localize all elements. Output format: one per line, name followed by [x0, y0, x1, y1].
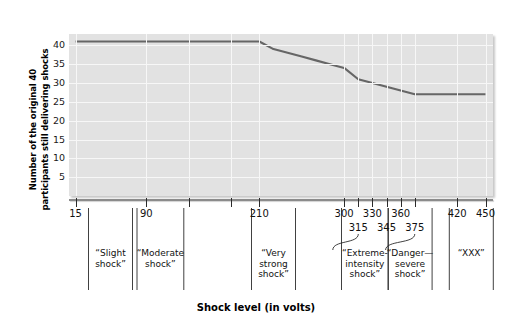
category-label-line: shock”	[95, 259, 126, 270]
category-label-line: “Slight	[95, 248, 126, 259]
x-axis-tick-mark	[146, 198, 147, 207]
category-label: “Slightshock”	[95, 248, 126, 269]
category-label: “XXX”	[458, 248, 485, 259]
category-label: “Danger—severeshock”	[387, 248, 434, 280]
category-label-line: shock”	[387, 269, 434, 280]
x-axis-tick-label: 210	[250, 208, 269, 219]
x-axis-tick-label: 420	[448, 208, 467, 219]
x-axis-tick-mark	[401, 198, 402, 207]
x-axis-tick-label: 360	[391, 208, 410, 219]
x-axis-tick-mark	[76, 198, 77, 207]
x-axis-tick-label: 345	[377, 222, 396, 233]
x-axis-tick-mark	[189, 198, 190, 207]
category-label-line: severe	[387, 259, 434, 270]
x-axis-tick-label: 315	[349, 222, 368, 233]
x-axis-tick-mark	[415, 198, 416, 207]
x-axis-tick-label: 300	[335, 208, 354, 219]
x-axis-tick-label: 15	[69, 208, 82, 219]
category-label-line: strong	[258, 259, 289, 270]
x-axis-tick-mark	[344, 198, 345, 207]
category-label-line: “Very	[258, 248, 289, 259]
x-axis-tick-label: 90	[140, 208, 153, 219]
x-axis-tick-mark	[387, 198, 388, 207]
x-axis-tick-mark	[259, 198, 260, 207]
x-axis-tick-mark	[486, 198, 487, 207]
x-axis-tick-label: 450	[476, 208, 495, 219]
category-leader-lines	[0, 0, 512, 322]
x-axis-tick-mark	[358, 198, 359, 207]
category-label-line: “XXX”	[458, 248, 485, 259]
category-label-line: shock”	[137, 259, 184, 270]
x-axis-tick-label: 375	[405, 222, 424, 233]
category-label: “Verystrongshock”	[258, 248, 289, 280]
category-label: “Extreme-intensityshock”	[342, 248, 388, 280]
chart-figure: Number of the original 40 participants s…	[0, 0, 512, 322]
category-label-line: shock”	[342, 269, 388, 280]
category-label: “Moderateshock”	[137, 248, 184, 269]
category-label-line: “Extreme-	[342, 248, 388, 259]
x-axis-tick-mark	[231, 198, 232, 207]
x-axis-tick-mark	[372, 198, 373, 207]
category-label-line: intensity	[342, 259, 388, 270]
category-label-line: shock”	[258, 269, 289, 280]
category-label-line: “Danger—	[387, 248, 434, 259]
x-axis-title: Shock level (in volts)	[0, 302, 512, 313]
x-axis-tick-label: 330	[363, 208, 382, 219]
category-label-line: “Moderate	[137, 248, 184, 259]
x-axis-tick-mark	[457, 198, 458, 207]
